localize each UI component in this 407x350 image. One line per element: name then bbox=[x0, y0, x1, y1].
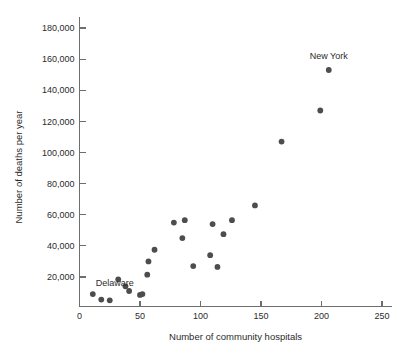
data-point bbox=[98, 297, 104, 303]
y-tick-label-160000: 160,000 bbox=[42, 54, 75, 64]
x-tick-label-150: 150 bbox=[253, 311, 268, 321]
x-tick-label-250: 250 bbox=[374, 311, 389, 321]
y-tick-label-180000: 180,000 bbox=[42, 23, 75, 33]
x-tick-label-50: 50 bbox=[135, 311, 145, 321]
data-point bbox=[221, 231, 227, 237]
x-axis-title: Number of community hospitals bbox=[169, 331, 302, 342]
point-annotations: DelawareNew York bbox=[96, 51, 348, 288]
y-tick-label-40000: 40,000 bbox=[47, 241, 75, 251]
y-tick-label-60000: 60,000 bbox=[47, 210, 75, 220]
data-point bbox=[140, 291, 146, 297]
data-point bbox=[107, 297, 113, 303]
data-point bbox=[190, 263, 196, 269]
y-tick-label-120000: 120,000 bbox=[42, 117, 75, 127]
data-point bbox=[229, 217, 235, 223]
axis-ticks bbox=[80, 28, 383, 307]
data-point bbox=[182, 217, 188, 223]
y-tick-label-140000: 140,000 bbox=[42, 85, 75, 95]
annotation-new-york: New York bbox=[310, 51, 349, 61]
data-point bbox=[179, 235, 185, 241]
y-tick-label-20000: 20,000 bbox=[47, 272, 75, 282]
data-point bbox=[207, 252, 213, 258]
y-tick-label-80000: 80,000 bbox=[47, 179, 75, 189]
data-point bbox=[215, 264, 221, 270]
chart-svg: 20,00040,00060,00080,000100,000120,00014… bbox=[0, 0, 407, 350]
data-point bbox=[317, 108, 323, 114]
data-point bbox=[279, 139, 285, 145]
x-tick-label-100: 100 bbox=[193, 311, 208, 321]
data-point bbox=[146, 259, 152, 265]
y-tick-label-100000: 100,000 bbox=[42, 148, 75, 158]
scatter-chart: 20,00040,00060,00080,000100,000120,00014… bbox=[0, 0, 407, 350]
x-tick-label-200: 200 bbox=[314, 311, 329, 321]
x-tick-label-0: 0 bbox=[77, 311, 82, 321]
data-point bbox=[171, 220, 177, 226]
data-point bbox=[252, 203, 258, 209]
data-points bbox=[90, 67, 332, 303]
y-axis-title: Number of deaths per year bbox=[13, 110, 24, 223]
data-point bbox=[326, 67, 332, 73]
data-point bbox=[126, 288, 132, 294]
data-point bbox=[144, 272, 150, 278]
data-point bbox=[210, 221, 216, 227]
data-point bbox=[152, 247, 158, 253]
axis-tick-labels: 20,00040,00060,00080,000100,000120,00014… bbox=[42, 23, 390, 321]
annotation-delaware: Delaware bbox=[96, 278, 134, 288]
data-point bbox=[90, 291, 96, 297]
